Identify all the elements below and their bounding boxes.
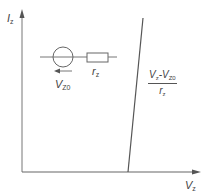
x-axis-arrow-icon (192, 170, 201, 175)
slope-fraction: Vz-VZ0 rz (148, 70, 177, 97)
resistor-icon (87, 53, 108, 62)
source-label: VZ0 (55, 79, 71, 91)
slope-denominator: rz (148, 84, 177, 97)
arrow-left-icon (54, 69, 60, 74)
characteristic-curve (128, 18, 143, 172)
x-axis-label: Vz (185, 180, 196, 192)
y-axis-arrow-icon (20, 9, 25, 18)
resistor-label: rz (92, 66, 99, 78)
diagram-canvas (0, 0, 213, 196)
y-axis-label: Iz (7, 13, 14, 25)
slope-numerator: Vz-VZ0 (148, 70, 177, 84)
